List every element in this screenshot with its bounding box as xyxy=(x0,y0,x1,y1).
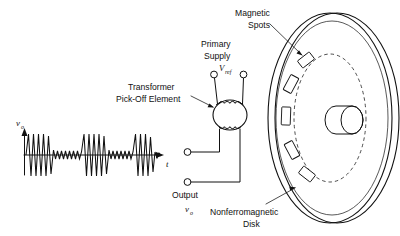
transformer-pickoff-group xyxy=(184,71,247,185)
v-ref-subscript: ref xyxy=(225,69,233,75)
magnetic-spots-label-line1: Magnetic xyxy=(235,8,271,18)
disk-hub-shaft xyxy=(325,106,363,134)
disk-label-line2: Disk xyxy=(243,219,260,229)
disk-label-line1: Nonferromagnetic xyxy=(210,207,279,217)
secondary-leads xyxy=(184,129,240,185)
output-terminal-top xyxy=(184,149,191,156)
output-symbol: v xyxy=(185,204,189,214)
primary-leads xyxy=(211,71,247,104)
output-label: Output xyxy=(172,190,198,200)
primary-terminal-left xyxy=(211,71,218,78)
nonferromagnetic-disk-group xyxy=(268,13,399,223)
waveform-x-axis-symbol: t xyxy=(166,159,169,169)
output-subscript: o xyxy=(190,210,193,216)
diagram-canvas: Magnetic Spots Primary Supply V ref Tran… xyxy=(0,0,400,236)
output-waveform-plot xyxy=(22,128,165,176)
transformer-label-line2: Pick-Off Element xyxy=(116,94,181,104)
transformer-core xyxy=(213,100,247,130)
waveform-y-axis-subscript: o xyxy=(21,124,24,130)
transformer-arrowhead xyxy=(208,104,214,108)
magnetic-spots-label-line2: Spots xyxy=(248,20,270,30)
magnetic-spot-3 xyxy=(281,107,291,125)
primary-terminal-right xyxy=(240,71,247,78)
transformer-label-line1: Transformer xyxy=(128,82,175,92)
primary-supply-label-line2: Supply xyxy=(204,51,231,61)
primary-supply-label-line1: Primary xyxy=(201,39,231,49)
output-terminal-bottom xyxy=(184,179,191,186)
figure-root: Magnetic Spots Primary Supply V ref Tran… xyxy=(0,0,400,236)
waveform-y-axis-symbol: v xyxy=(16,118,20,128)
